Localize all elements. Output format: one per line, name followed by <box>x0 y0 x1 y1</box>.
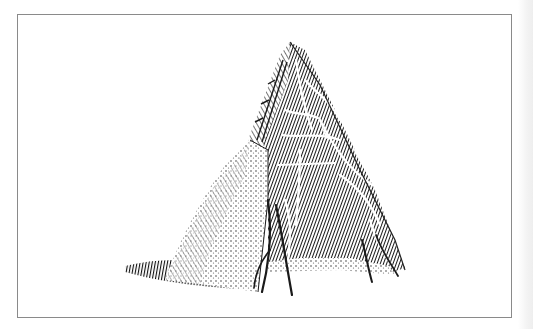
hut-engraving <box>0 0 533 329</box>
bark-slab <box>165 140 268 292</box>
